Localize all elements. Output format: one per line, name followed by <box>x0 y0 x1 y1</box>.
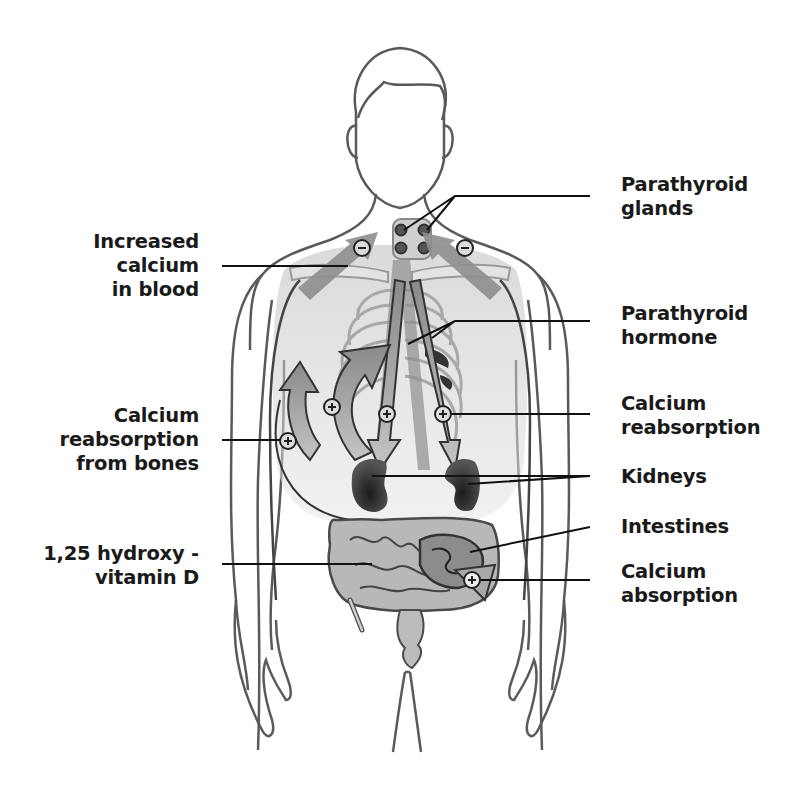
plus-icon <box>324 399 340 415</box>
minus-icon <box>457 240 473 256</box>
label-calcium-absorption: Calcium absorption <box>621 560 738 608</box>
label-calcium-reabsorption: Calcium reabsorption <box>621 392 760 440</box>
label-parathyroid-glands: Parathyroid glands <box>621 173 748 221</box>
intestines <box>329 518 499 668</box>
plus-icon <box>435 406 451 422</box>
plus-icon <box>280 433 296 449</box>
label-kidneys: Kidneys <box>621 465 707 489</box>
label-parathyroid-hormone: Parathyroid hormone <box>621 302 748 350</box>
label-vitamin-d: 1,25 hydroxy - vitamin D <box>43 542 199 590</box>
plus-icon <box>379 406 395 422</box>
label-calcium-reabsorption-bones: Calcium reabsorption from bones <box>60 404 199 476</box>
label-increased-calcium: Increased calcium in blood <box>93 230 199 302</box>
minus-icon <box>354 240 370 256</box>
label-intestines: Intestines <box>621 515 729 539</box>
plus-icon <box>464 572 480 588</box>
